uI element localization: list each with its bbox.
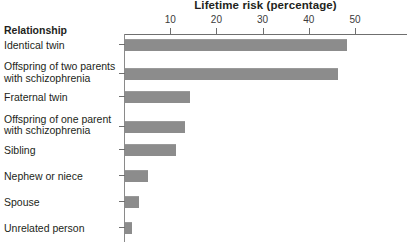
plot-area: Identical twinOffspring of two parentswi… <box>0 34 407 242</box>
x-tick-label: 50 <box>349 14 360 25</box>
x-tick-label: 40 <box>303 14 314 25</box>
x-axis: 1020304050 <box>124 14 407 36</box>
category-label: Offspring of one parentwith schizophreni… <box>4 114 120 137</box>
bar <box>125 39 347 51</box>
x-tick-label: 20 <box>211 14 222 25</box>
chart-title: Lifetime risk (percentage) <box>124 0 407 11</box>
x-tick-label: 10 <box>165 14 176 25</box>
bar <box>125 144 176 156</box>
category-label-line: Identical twin <box>4 40 120 52</box>
bar <box>125 68 338 80</box>
bar <box>125 91 190 103</box>
bar <box>125 196 139 208</box>
category-label: Offspring of two parentswith schizophren… <box>4 61 120 84</box>
category-label: Identical twin <box>4 40 120 52</box>
category-label: Spouse <box>4 197 120 209</box>
bar <box>125 121 185 133</box>
category-label-line: Fraternal twin <box>4 92 120 104</box>
category-label-line: with schizophrenia <box>4 125 120 137</box>
x-tick-label: 30 <box>257 14 268 25</box>
category-label-line: Nephew or niece <box>4 171 120 183</box>
category-label-line: Sibling <box>4 145 120 157</box>
category-label: Nephew or niece <box>4 171 120 183</box>
bar-row: Offspring of one parentwith schizophreni… <box>0 113 407 139</box>
category-label: Unrelated person <box>4 223 120 235</box>
bar <box>125 222 132 234</box>
chart-container: Lifetime risk (percentage) Relationship … <box>0 0 407 242</box>
bar-row: Nephew or niece <box>0 165 407 191</box>
bar-row: Identical twin <box>0 34 407 60</box>
category-label-line: Unrelated person <box>4 223 120 235</box>
bar-row: Offspring of two parentswith schizophren… <box>0 60 407 86</box>
category-label-line: with schizophrenia <box>4 73 120 85</box>
bar-row: Spouse <box>0 191 407 217</box>
bar-row: Fraternal twin <box>0 86 407 112</box>
bar-row: Unrelated person <box>0 217 407 242</box>
bar-row: Sibling <box>0 139 407 165</box>
category-label-line: Spouse <box>4 197 120 209</box>
category-label: Fraternal twin <box>4 92 120 104</box>
category-label: Sibling <box>4 145 120 157</box>
bar <box>125 170 148 182</box>
